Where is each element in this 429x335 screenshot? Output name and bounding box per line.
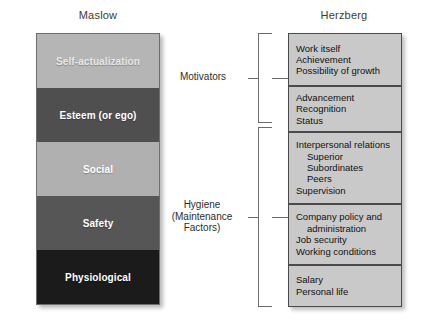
herzberg-factors-column: Work itselfAchievementPossibility of gro… [288,33,402,307]
motivators-bracket [258,33,272,123]
maslow-hierarchy-column: Self-actualizationEsteem (or ego)SocialS… [36,33,160,305]
maslow-band-social: Social [37,142,159,196]
herzberg-item: Superior [296,151,397,162]
herzberg-box-1: Work itselfAchievementPossibility of gro… [289,34,401,87]
herzberg-column-title: Herzberg [286,9,402,21]
maslow-column-title: Maslow [36,9,160,21]
maslow-band-self-actualization: Self-actualization [37,34,159,88]
herzberg-box-3: Interpersonal relationsSuperiorSubordina… [289,133,401,205]
herzberg-box-5: SalaryPersonal life [289,266,401,306]
herzberg-item: administration [296,223,397,234]
herzberg-item: Work itself [296,43,397,54]
hygiene-bracket-stem [272,217,288,218]
herzberg-item: Subordinates [296,162,397,173]
herzberg-item: Peers [296,173,397,184]
hygiene-bracket-label: Hygiene(MaintenanceFactors) [158,199,246,234]
herzberg-item: Supervision [296,185,397,196]
hygiene-label-line: Hygiene [158,199,246,211]
motivators-bracket-label: Motivators [160,71,246,83]
herzberg-item: Job security [296,234,397,245]
hygiene-bracket-tick [248,217,258,218]
herzberg-item: Company policy and [296,211,397,222]
maslow-band-physiological: Physiological [37,250,159,304]
maslow-band-safety: Safety [37,196,159,250]
herzberg-item: Recognition [296,103,397,114]
hygiene-label-line: Factors) [158,222,246,234]
herzberg-item: Status [296,115,397,126]
herzberg-item: Interpersonal relations [296,139,397,150]
motivators-label-line: Motivators [160,71,246,83]
herzberg-box-2: AdvancementRecognitionStatus [289,87,401,132]
diagram-canvas: Maslow Herzberg Self-actualizationEsteem… [0,0,429,335]
motivators-bracket-stem [272,78,288,79]
herzberg-item: Achievement [296,54,397,65]
hygiene-label-line: (Maintenance [158,211,246,223]
herzberg-item: Advancement [296,92,397,103]
maslow-band-esteem-or-ego: Esteem (or ego) [37,88,159,142]
herzberg-item: Salary [296,274,397,285]
hygiene-bracket [258,127,272,307]
herzberg-item: Possibility of growth [296,65,397,76]
herzberg-item: Working conditions [296,246,397,257]
herzberg-box-4: Company policy andadministrationJob secu… [289,205,401,266]
herzberg-item: Personal life [296,286,397,297]
motivators-bracket-tick [248,78,258,79]
